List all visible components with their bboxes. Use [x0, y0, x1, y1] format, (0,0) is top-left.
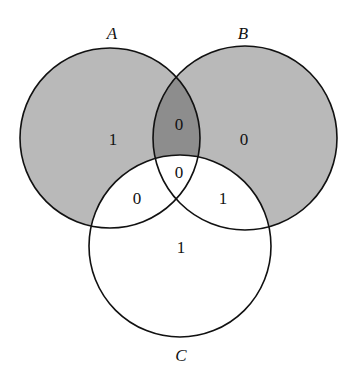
- set-c-label: C: [175, 346, 187, 365]
- set-b-label: B: [238, 24, 249, 43]
- region-ab-only: 0: [175, 115, 184, 134]
- region-abc: 0: [175, 163, 184, 182]
- region-b-only: 0: [240, 130, 249, 149]
- venn-diagram: A B C 1 0 0 0 0 1 1: [0, 0, 356, 380]
- set-a-label: A: [106, 24, 118, 43]
- region-c-only: 1: [177, 238, 186, 257]
- region-a-only: 1: [109, 130, 118, 149]
- region-ac-only: 0: [133, 189, 142, 208]
- region-bc-only: 1: [219, 189, 228, 208]
